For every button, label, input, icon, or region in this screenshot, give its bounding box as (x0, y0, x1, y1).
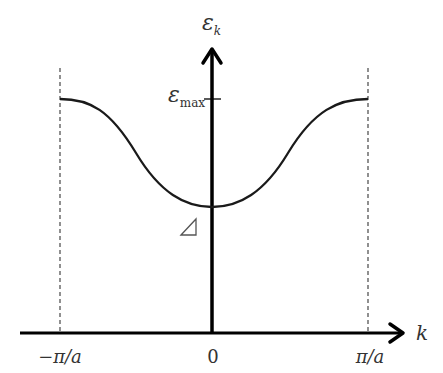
x-tick-zero: 0 (207, 346, 218, 367)
dispersion-diagram: εk εmax −π/a 0 π/a k (0, 0, 443, 373)
gap-delta-icon (181, 219, 196, 235)
emax-label: εmax (168, 82, 205, 110)
x-tick-neg-pi-a: −π/a (38, 346, 82, 367)
x-axis-label: k (416, 321, 428, 345)
x-tick-pi-a: π/a (355, 346, 385, 367)
y-axis-label: εk (202, 10, 221, 38)
dispersion-curve (60, 99, 368, 207)
